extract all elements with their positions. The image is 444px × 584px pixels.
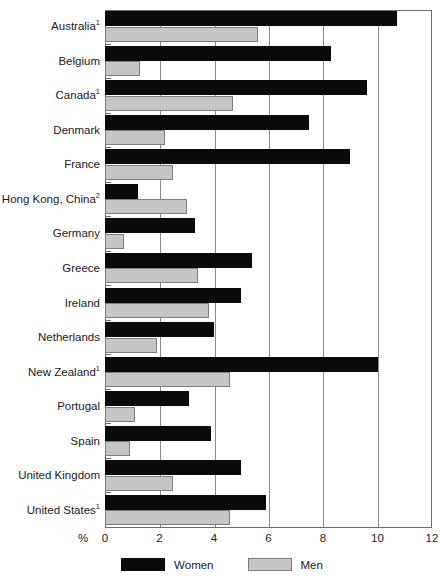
bar-group (105, 148, 432, 183)
bar-men (105, 27, 258, 42)
category-label-hong-kong-china: Hong Kong, China2 (0, 193, 100, 206)
bar-group (105, 355, 432, 390)
bar-women (105, 149, 350, 164)
category-label-australia: Australia1 (0, 20, 100, 33)
bar-women (105, 11, 397, 26)
bar-group (105, 390, 432, 425)
horizontal-bar-chart: Australia1BelgiumCanada1DenmarkFranceHon… (0, 0, 444, 584)
bar-group (105, 10, 432, 45)
bar-women (105, 322, 214, 337)
bar-group (105, 459, 432, 494)
bar-women (105, 218, 195, 233)
legend-item-men: Men (248, 558, 323, 571)
bar-women (105, 115, 309, 130)
x-tick-label-6: 6 (265, 532, 271, 544)
bar-men (105, 372, 230, 387)
bar-group (105, 114, 432, 149)
x-tick-label-8: 8 (320, 532, 326, 544)
category-label-netherlands: Netherlands (0, 331, 100, 344)
bars-layer (105, 10, 432, 528)
category-label-france: France (0, 158, 100, 171)
x-tick-label-12: 12 (426, 532, 439, 544)
category-label-united-kingdom: United Kingdom (0, 469, 100, 482)
x-tick-label-0: 0 (102, 532, 108, 544)
bar-men (105, 165, 173, 180)
bar-men (105, 407, 135, 422)
x-tick-label-10: 10 (371, 532, 384, 544)
bar-group (105, 183, 432, 218)
bar-men (105, 130, 165, 145)
bar-women (105, 357, 378, 372)
bar-women (105, 80, 367, 95)
bar-group (105, 286, 432, 321)
category-label-new-zealand: New Zealand1 (0, 366, 100, 379)
bar-women (105, 460, 241, 475)
bar-men (105, 510, 230, 525)
bar-women (105, 288, 241, 303)
bar-men (105, 234, 124, 249)
category-label-denmark: Denmark (0, 124, 100, 137)
bar-men (105, 268, 198, 283)
bar-men (105, 303, 209, 318)
category-label-greece: Greece (0, 262, 100, 275)
x-tick-label-2: 2 (156, 532, 162, 544)
black-swatch-icon (121, 558, 165, 571)
bar-group (105, 217, 432, 252)
bar-group (105, 252, 432, 287)
category-label-portugal: Portugal (0, 400, 100, 413)
category-label-united-states: United States1 (0, 504, 100, 517)
bar-men (105, 441, 130, 456)
chart-legend: Women Men (0, 558, 444, 571)
bar-women (105, 253, 252, 268)
category-label-belgium: Belgium (0, 55, 100, 68)
legend-label-women: Women (174, 559, 213, 571)
category-label-ireland: Ireland (0, 297, 100, 310)
bar-group (105, 493, 432, 528)
footnote-marker: 1 (96, 364, 100, 373)
category-labels: Australia1BelgiumCanada1DenmarkFranceHon… (0, 10, 100, 528)
bar-women (105, 426, 211, 441)
category-label-spain: Spain (0, 435, 100, 448)
bar-men (105, 199, 187, 214)
x-axis-unit-label: % (78, 532, 88, 544)
bar-women (105, 495, 266, 510)
gray-swatch-icon (248, 558, 292, 571)
footnote-marker: 1 (96, 88, 100, 97)
bar-men (105, 61, 140, 76)
footnote-marker: 2 (96, 191, 100, 200)
legend-label-men: Men (301, 559, 323, 571)
bar-men (105, 476, 173, 491)
legend-item-women: Women (121, 558, 213, 571)
x-axis: 024681012 (105, 528, 432, 552)
bar-group (105, 321, 432, 356)
footnote-marker: 1 (96, 502, 100, 511)
bar-men (105, 338, 157, 353)
bar-group (105, 79, 432, 114)
bar-men (105, 96, 233, 111)
bar-women (105, 391, 189, 406)
category-label-germany: Germany (0, 227, 100, 240)
bar-group (105, 424, 432, 459)
bar-women (105, 184, 138, 199)
x-tick-label-4: 4 (211, 532, 217, 544)
footnote-marker: 1 (96, 18, 100, 27)
bar-women (105, 46, 331, 61)
bar-group (105, 45, 432, 80)
category-label-canada: Canada1 (0, 89, 100, 102)
